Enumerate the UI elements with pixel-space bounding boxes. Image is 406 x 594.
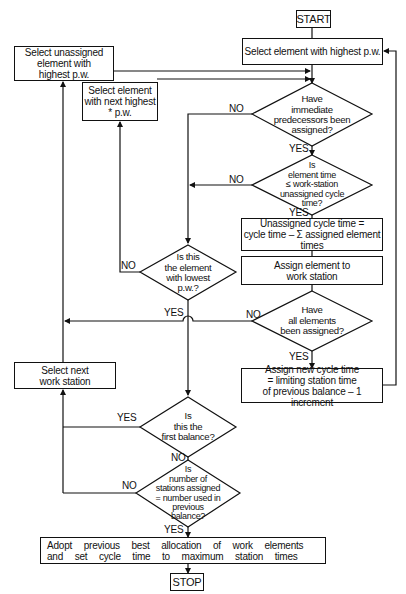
label-element-time-no: NO	[229, 174, 244, 185]
start-terminal: START	[296, 10, 331, 28]
label-lowest-pw-yes: YES	[164, 307, 183, 318]
process-unassigned-cycle-time: Unassigned cycle time = cycle time – Σ a…	[241, 218, 383, 251]
process-select-next-highest-label: Select element with next highest * p.w.	[84, 85, 155, 118]
label-stations-equal-no: NO	[122, 480, 137, 491]
decision-predecessors-label: Have immediate predecessors been assigne…	[274, 94, 351, 136]
stop-label: STOP	[173, 577, 202, 588]
label-element-time-yes: YES	[289, 207, 308, 218]
decision-lowest-pw-text: Is this the element with lowest p.w.?	[146, 247, 230, 299]
process-unassigned-cycle-time-label: Unassigned cycle time = cycle time – Σ a…	[244, 218, 381, 251]
edge-all-assigned-no	[65, 316, 252, 321]
process-select-next-station-label: Select next work station	[40, 365, 91, 387]
process-assign-element-label: Assign element to work station	[274, 260, 350, 282]
label-lowest-pw-no: NO	[121, 260, 136, 271]
process-select-unassigned: Select unassigned element with highest p…	[14, 46, 114, 81]
stop-terminal: STOP	[170, 573, 204, 591]
edge-lowest-pw-no	[120, 122, 140, 272]
label-first-balance-yes: YES	[117, 412, 136, 423]
label-predecessors-yes: YES	[289, 143, 308, 154]
decision-all-assigned-label: Have all elements been assigned?	[280, 305, 344, 336]
label-predecessors-no: NO	[229, 103, 244, 114]
decision-first-balance-text: Is this the first balance?	[146, 400, 230, 454]
decision-predecessors-text: Have immediate predecessors been assigne…	[262, 86, 362, 144]
decision-first-balance-label: Is this the first balance?	[162, 411, 215, 442]
process-assign-new-cycle: Assign new cycle time = limiting station…	[241, 368, 383, 403]
decision-element-time-text: Is element time ≤ work-station unassigne…	[262, 157, 362, 213]
process-select-highest: Select element with highest p.w.	[242, 38, 383, 65]
edge-new-cycle-loop	[382, 51, 396, 385]
process-select-next-station: Select next work station	[14, 362, 116, 389]
start-label: START	[296, 14, 330, 25]
label-stations-equal-yes: YES	[164, 524, 183, 535]
decision-element-time-label: Is element time ≤ work-station unassigne…	[280, 161, 344, 209]
label-first-balance-no: NO	[171, 452, 186, 463]
process-assign-new-cycle-label: Assign new cycle time = limiting station…	[242, 364, 382, 408]
label-all-assigned-yes: YES	[289, 351, 308, 362]
decision-stations-equal-label: Is number of stations assigned = number …	[156, 465, 221, 521]
process-adopt-previous: Adopt previous best allocation of work e…	[40, 537, 326, 564]
process-select-next-highest: Select element with next highest * p.w.	[82, 82, 158, 121]
process-select-unassigned-label: Select unassigned element with highest p…	[25, 47, 103, 80]
decision-stations-equal-text: Is number of stations assigned = number …	[144, 461, 232, 526]
process-adopt-previous-label: Adopt previous best allocation of work e…	[47, 540, 303, 562]
label-all-assigned-no: NO	[246, 309, 261, 320]
process-assign-element: Assign element to work station	[241, 256, 383, 285]
decision-lowest-pw-label: Is this the element with lowest p.w.?	[165, 252, 212, 294]
process-select-highest-label: Select element with highest p.w.	[245, 46, 381, 57]
decision-all-assigned-text: Have all elements been assigned?	[262, 294, 362, 348]
